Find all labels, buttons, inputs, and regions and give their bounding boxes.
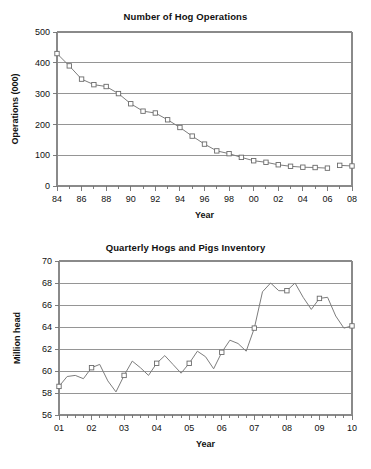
data-point-marker [313, 165, 317, 169]
x-tick-label-01: 01 [54, 423, 64, 433]
data-point-marker [264, 160, 268, 164]
x-axis-title: Year [196, 439, 216, 449]
y-tick-label-200: 200 [35, 120, 50, 130]
data-point-marker [202, 142, 206, 146]
data-point-marker [220, 350, 224, 354]
chart-hog-operations: Number of Hog Operations 010020030040050… [0, 0, 371, 235]
y-axis-title: Operations (000) [10, 73, 20, 144]
data-point-marker [55, 51, 59, 55]
x-tick-label-06: 06 [322, 194, 332, 204]
data-point-marker [285, 289, 289, 293]
y-tick-label-100: 100 [35, 150, 50, 160]
data-point-marker [338, 163, 342, 167]
x-tick-label-09: 09 [314, 423, 324, 433]
x-tick-label-90: 90 [126, 194, 136, 204]
chart-canvas-hog-operations: 0100200300400500848688909294969800020406… [0, 0, 371, 235]
data-point-marker [251, 159, 255, 163]
y-tick-label-66: 66 [42, 300, 52, 310]
x-tick-label-96: 96 [199, 194, 209, 204]
x-tick-label-08: 08 [347, 194, 357, 204]
data-point-marker [227, 151, 231, 155]
x-tick-label-08: 08 [282, 423, 292, 433]
data-point-marker [215, 149, 219, 153]
data-point-marker [57, 384, 61, 388]
x-tick-label-04: 04 [152, 423, 162, 433]
data-point-marker [317, 296, 321, 300]
data-point-marker [239, 155, 243, 159]
data-point-marker [350, 324, 354, 328]
y-tick-label-0: 0 [45, 181, 50, 191]
x-tick-label-02: 02 [273, 194, 283, 204]
x-tick-label-98: 98 [224, 194, 234, 204]
y-tick-label-64: 64 [42, 322, 52, 332]
x-tick-label-10: 10 [347, 423, 357, 433]
data-point-marker [187, 361, 191, 365]
x-tick-label-05: 05 [184, 423, 194, 433]
data-point-marker [104, 84, 108, 88]
y-tick-label-500: 500 [35, 27, 50, 37]
data-point-marker [92, 82, 96, 86]
data-point-marker [276, 163, 280, 167]
data-point-marker [252, 326, 256, 330]
x-tick-label-84: 84 [52, 194, 62, 204]
data-point-marker [190, 134, 194, 138]
chart-hogs-pigs-inventory: Quarterly Hogs and Pigs Inventory 565860… [0, 235, 371, 469]
x-tick-label-88: 88 [101, 194, 111, 204]
series-line-0 [57, 54, 327, 169]
data-point-marker [350, 164, 354, 168]
data-point-marker [288, 164, 292, 168]
y-tick-label-56: 56 [42, 410, 52, 420]
x-tick-label-92: 92 [150, 194, 160, 204]
x-tick-label-06: 06 [217, 423, 227, 433]
x-tick-label-02: 02 [87, 423, 97, 433]
data-point-marker [153, 111, 157, 115]
x-tick-label-07: 07 [249, 423, 259, 433]
y-tick-label-70: 70 [42, 256, 52, 266]
x-tick-label-04: 04 [298, 194, 308, 204]
x-tick-label-00: 00 [249, 194, 259, 204]
x-tick-label-94: 94 [175, 194, 185, 204]
data-point-marker [141, 109, 145, 113]
data-point-marker [301, 165, 305, 169]
y-tick-label-68: 68 [42, 278, 52, 288]
x-tick-label-86: 86 [77, 194, 87, 204]
data-point-marker [154, 361, 158, 365]
chart-canvas-hogs-pigs-inventory: 565860626466687001020304050607080910Year… [0, 235, 371, 469]
series-line-0 [59, 283, 352, 392]
data-point-marker [165, 118, 169, 122]
y-tick-label-60: 60 [42, 366, 52, 376]
data-point-marker [89, 366, 93, 370]
y-tick-label-300: 300 [35, 89, 50, 99]
data-point-marker [116, 91, 120, 95]
x-tick-label-03: 03 [119, 423, 129, 433]
data-point-marker [67, 64, 71, 68]
data-point-marker [129, 102, 133, 106]
y-tick-label-58: 58 [42, 388, 52, 398]
data-point-marker [178, 125, 182, 129]
x-axis-title: Year [195, 210, 215, 220]
data-point-marker [79, 77, 83, 81]
y-tick-label-62: 62 [42, 344, 52, 354]
y-tick-label-400: 400 [35, 58, 50, 68]
y-axis-title: Million head [12, 312, 22, 364]
data-point-marker [122, 373, 126, 377]
data-point-marker [325, 166, 329, 170]
